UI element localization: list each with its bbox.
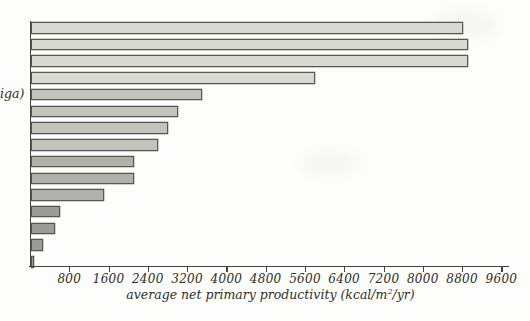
x-tick-label-3200: 3200 — [165, 272, 209, 286]
bar-row-14 — [31, 239, 43, 251]
x-axis-line — [29, 266, 509, 267]
bar-row-4 — [31, 72, 316, 84]
bar-row-6 — [31, 106, 178, 118]
bar-row-5 — [31, 89, 203, 101]
cropped-category-label-taiga: iga) — [0, 86, 24, 101]
bar-row-7 — [31, 122, 169, 134]
bar-row-13 — [31, 223, 56, 235]
y-axis-line — [30, 21, 31, 266]
bar-row-10 — [31, 173, 134, 185]
x-tick-label-2400: 2400 — [126, 272, 170, 286]
bar-row-9 — [31, 156, 134, 168]
bar-row-2 — [31, 39, 468, 51]
bar-row-11 — [31, 189, 105, 201]
x-axis-title: average net primary productivity (kcal/m… — [30, 287, 511, 302]
plot-area: 8001600240032004000480056006400720080008… — [0, 0, 530, 321]
x-tick-label-4800: 4800 — [244, 272, 288, 286]
x-tick-label-7200: 7200 — [362, 272, 406, 286]
x-axis-title-suffix: /yr) — [393, 287, 415, 302]
x-tick-label-1600: 1600 — [87, 272, 131, 286]
x-tick-label-6400: 6400 — [322, 272, 366, 286]
x-tick-label-800: 800 — [47, 272, 91, 286]
x-tick-label-8800: 8800 — [440, 272, 484, 286]
bar-row-8 — [31, 139, 159, 151]
bar-row-1 — [31, 22, 463, 34]
x-axis-title-text: average net primary productivity (kcal/m — [126, 287, 387, 302]
x-tick-label-8000: 8000 — [401, 272, 445, 286]
x-tick-label-5600: 5600 — [283, 272, 327, 286]
bar-row-12 — [31, 206, 61, 218]
x-tick-label-9600: 9600 — [479, 272, 523, 286]
bar-row-3 — [31, 55, 468, 67]
x-tick-label-4000: 4000 — [204, 272, 248, 286]
productivity-bar-chart-figure: 8001600240032004000480056006400720080008… — [0, 0, 530, 321]
